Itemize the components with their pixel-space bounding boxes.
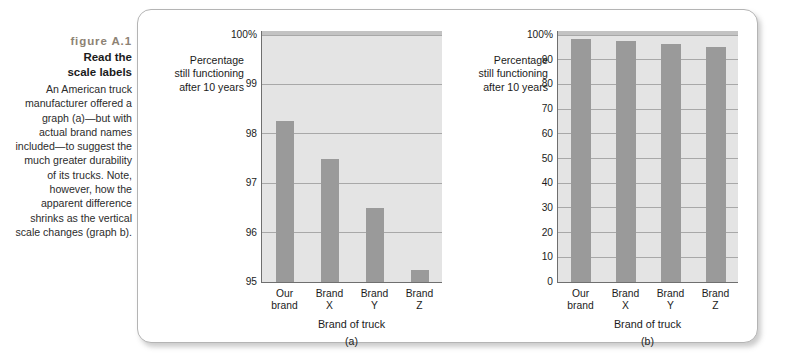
chart-b-y-tick-label: 90 xyxy=(512,55,553,65)
chart-b-gridline xyxy=(558,35,738,36)
chart-a-y-tick-label: 95 xyxy=(216,277,257,287)
chart-b-panel-label: (b) xyxy=(557,335,738,347)
chart-a-x-axis-line xyxy=(261,282,442,283)
chart-b-y-tick-label: 20 xyxy=(512,228,553,238)
chart-a-bar xyxy=(366,208,384,282)
chart-b-y-tick-label: 10 xyxy=(512,252,553,262)
figure-number: figure A.1 xyxy=(14,34,132,49)
chart-a-y-tick-label: 100% xyxy=(216,30,257,40)
chart-a-y-tick-label: 98 xyxy=(216,129,257,139)
figure-root: figure A.1 Read the scale labels An Amer… xyxy=(0,0,785,361)
chart-b-bar xyxy=(661,44,681,282)
chart-b-x-axis-line xyxy=(557,282,738,283)
chart-b-y-axis-line xyxy=(557,31,558,283)
chart-a-x-tick-label: Brand Z xyxy=(380,288,460,313)
chart-a: Percentage still functioning after 10 ye… xyxy=(144,10,450,342)
chart-a-plot-area xyxy=(262,31,442,282)
chart-a-bar xyxy=(411,270,429,282)
chart-a-bar xyxy=(276,121,294,282)
chart-b-x-axis-title: Brand of truck xyxy=(557,318,738,330)
chart-b-y-tick-label: 50 xyxy=(512,154,553,164)
chart-b-bar xyxy=(571,39,591,282)
chart-b-y-tick-label: 0 xyxy=(512,277,553,287)
chart-b-y-tick-label: 100% xyxy=(512,30,553,40)
figure-panel: Percentage still functioning after 10 ye… xyxy=(137,9,758,343)
chart-b-y-tick-label: 40 xyxy=(512,178,553,188)
chart-a-gridline xyxy=(262,84,442,85)
chart-a-x-axis-title: Brand of truck xyxy=(261,318,442,330)
chart-a-panel-label: (a) xyxy=(261,335,442,347)
chart-b-bar xyxy=(616,41,636,282)
chart-a-gridline xyxy=(262,35,442,36)
figure-description: An American truck manufacturer offered a… xyxy=(14,82,132,239)
chart-b-y-tick-label: 70 xyxy=(512,104,553,114)
chart-a-y-axis-line xyxy=(261,31,262,283)
chart-b-y-tick-label: 30 xyxy=(512,203,553,213)
chart-b-bar xyxy=(706,47,726,282)
figure-caption: figure A.1 Read the scale labels An Amer… xyxy=(14,34,132,239)
charts-row: Percentage still functioning after 10 ye… xyxy=(138,10,757,342)
chart-b: Percentage still functioning after 10 ye… xyxy=(450,10,750,342)
chart-b-y-tick-label: 80 xyxy=(512,79,553,89)
chart-a-bar xyxy=(321,159,339,283)
chart-a-y-tick-label: 99 xyxy=(216,79,257,89)
chart-b-plot-area xyxy=(558,31,738,282)
chart-b-y-tick-label: 60 xyxy=(512,129,553,139)
chart-b-x-tick-label: Brand Z xyxy=(676,288,756,313)
figure-title: Read the scale labels xyxy=(14,50,132,79)
chart-a-y-tick-label: 97 xyxy=(216,178,257,188)
chart-a-y-tick-label: 96 xyxy=(216,228,257,238)
